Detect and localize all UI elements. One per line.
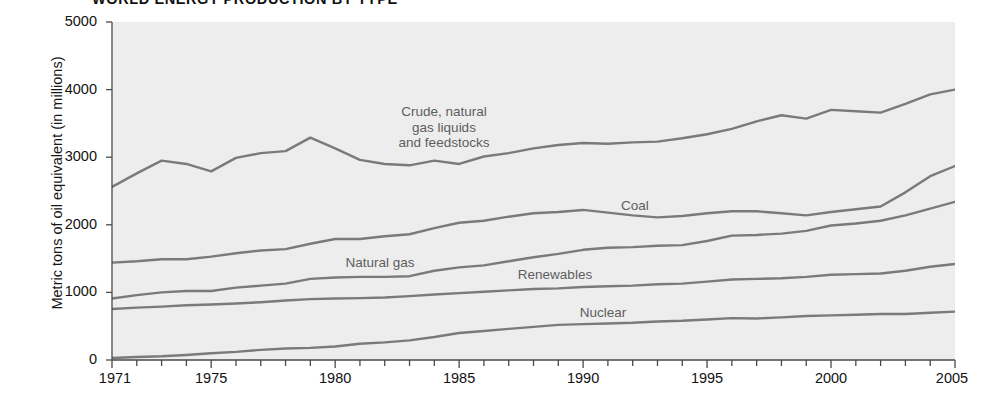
x-axis-tick-label: 1980 xyxy=(305,370,365,386)
series-line xyxy=(112,202,955,299)
x-axis-tick-label: 1985 xyxy=(429,370,489,386)
chart-title: WORLD ENERGY PRODUCTION BY TYPE xyxy=(92,0,398,7)
y-axis-tick-label: 0 xyxy=(37,351,97,367)
coal-label: Coal xyxy=(600,198,670,214)
y-axis-tick-label: 3000 xyxy=(37,148,97,164)
y-axis-tick-label: 1000 xyxy=(37,283,97,299)
renewables-label: Renewables xyxy=(495,267,615,283)
crude-label: Crude, natural gas liquids and feedstock… xyxy=(364,104,524,151)
y-axis-title: Metric tons of oil equivalent (in millio… xyxy=(49,13,65,353)
x-axis-tick-label: 1995 xyxy=(677,370,737,386)
x-axis-tick-label: 1971 xyxy=(85,370,145,386)
x-axis-tick-label: 2005 xyxy=(922,370,982,386)
nuclear-label: Nuclear xyxy=(558,305,648,321)
series-line xyxy=(112,166,955,263)
plot-area xyxy=(112,22,955,360)
y-axis-tick-label: 4000 xyxy=(37,81,97,97)
y-axis-tick-label: 2000 xyxy=(37,216,97,232)
series-line xyxy=(112,90,955,187)
natural-gas-label: Natural gas xyxy=(325,255,435,271)
x-axis-tick-label: 1975 xyxy=(181,370,241,386)
chart-container: WORLD ENERGY PRODUCTION BY TYPE Metric t… xyxy=(0,0,990,399)
series-line xyxy=(112,312,955,358)
x-axis-tick-label: 2000 xyxy=(801,370,861,386)
x-axis-tick-label: 1990 xyxy=(553,370,613,386)
y-axis-tick-label: 5000 xyxy=(37,13,97,29)
series-lines xyxy=(112,22,955,360)
